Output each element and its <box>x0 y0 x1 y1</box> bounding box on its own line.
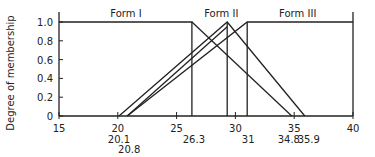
form-label: Form III <box>279 8 316 19</box>
form-label: Form I <box>110 8 141 19</box>
x-tick-label: 15 <box>53 123 66 134</box>
y-tick-label: 0.8 <box>37 36 53 47</box>
annotated-x-value: 26.3 <box>183 134 205 145</box>
series-line <box>127 27 227 116</box>
annotated-x-value: 34.8 <box>278 134 300 145</box>
annotated-x-value: 31 <box>242 134 255 145</box>
annotated-x-value: 35.9 <box>298 134 320 145</box>
y-tick-label: 0.6 <box>37 55 53 66</box>
x-tick-label: 30 <box>229 123 242 134</box>
y-axis-label: Degree of membership <box>5 15 16 130</box>
axes <box>59 12 353 119</box>
form-label: Form II <box>204 8 238 19</box>
plot-area <box>59 22 353 116</box>
y-tick-label: 0.4 <box>37 73 53 84</box>
series-line <box>59 22 192 116</box>
y-tick-label: 0 <box>47 111 53 122</box>
labels: 15202530354000.20.40.60.81.020.120.826.3… <box>5 8 359 155</box>
y-tick-label: 0.2 <box>37 92 53 103</box>
membership-chart: 15202530354000.20.40.60.81.020.120.826.3… <box>0 0 375 157</box>
series-line <box>192 22 292 116</box>
y-tick-label: 1.0 <box>37 17 53 28</box>
annotated-x-value: 20.8 <box>118 144 140 155</box>
x-tick-label: 35 <box>288 123 301 134</box>
x-tick-label: 20 <box>111 123 124 134</box>
x-tick-label: 25 <box>170 123 183 134</box>
x-tick-label: 40 <box>347 123 360 134</box>
series-line <box>127 22 353 116</box>
